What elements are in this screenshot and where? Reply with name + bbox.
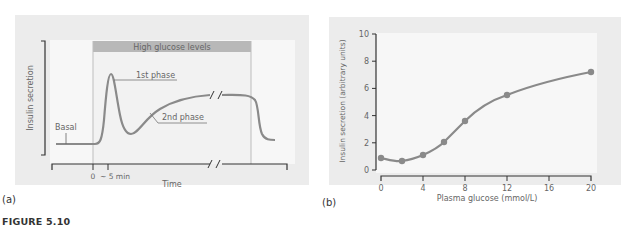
x-tick-label-0: 0 — [91, 172, 96, 181]
basal-label: Basal — [55, 123, 77, 132]
y-tick-6: 6 — [364, 84, 369, 93]
x-tick-16: 16 — [544, 184, 554, 193]
point-8 — [462, 118, 468, 124]
panel-label-b: (b) — [322, 197, 336, 208]
second-phase-label: 2nd phase — [162, 113, 204, 122]
x-axis-label: Time — [161, 180, 182, 189]
panel-a: High glucose levels Insulin secretion Ba… — [2, 15, 309, 205]
y-axis-label-b: Insulin secretion (arbitrary units) — [338, 39, 347, 162]
x-tick-12: 12 — [502, 184, 512, 193]
point-12 — [504, 92, 510, 98]
point-6 — [441, 139, 447, 145]
panel-b-plot-area — [376, 33, 597, 173]
x-axis-label-b: Plasma glucose (mmol/L) — [437, 194, 538, 203]
x-tick-4: 4 — [420, 184, 425, 193]
point-0 — [378, 155, 384, 161]
x-tick-label-5min: ~ 5 min — [100, 172, 130, 181]
high-glucose-label: High glucose levels — [133, 43, 210, 52]
y-tick-8: 8 — [364, 57, 369, 66]
figure-canvas: High glucose levels Insulin secretion Ba… — [0, 0, 632, 232]
point-4 — [420, 152, 426, 158]
first-phase-label: 1st phase — [136, 71, 175, 80]
panel-label-a: (a) — [2, 194, 16, 205]
x-tick-20: 20 — [586, 184, 596, 193]
y-tick-4: 4 — [364, 112, 369, 121]
y-tick-0: 0 — [364, 166, 369, 175]
panel-b: 0 2 4 6 8 10 Insulin secretion (arbitrar… — [322, 17, 621, 208]
x-tick-8: 8 — [462, 184, 467, 193]
figure-title: FIGURE 5.10 — [2, 216, 70, 227]
point-2 — [399, 158, 405, 164]
y-axis-label: Insulin secretion — [26, 65, 35, 131]
point-20 — [588, 69, 594, 75]
y-tick-2: 2 — [364, 139, 369, 148]
x-tick-0: 0 — [378, 184, 383, 193]
y-tick-10: 10 — [359, 30, 369, 39]
